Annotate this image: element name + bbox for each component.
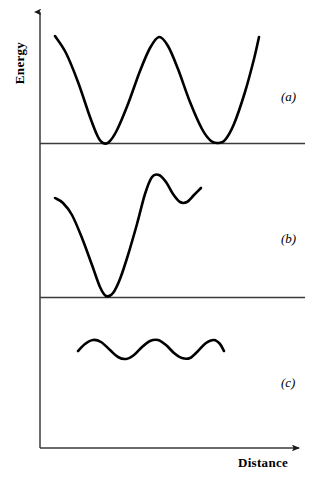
y-axis-label: Energy [12,33,28,93]
x-axis-label: Distance [238,455,288,471]
energy-curve-a [55,36,259,144]
figure-canvas [0,0,316,481]
energy-curve-c [78,340,224,359]
panel-label-b: (b) [281,231,296,247]
energy-distance-figure: Energy Distance (a) (b) (c) [0,0,316,481]
panel-label-c: (c) [281,375,295,391]
energy-curve-b [55,174,201,296]
panel-label-a: (a) [281,89,296,105]
